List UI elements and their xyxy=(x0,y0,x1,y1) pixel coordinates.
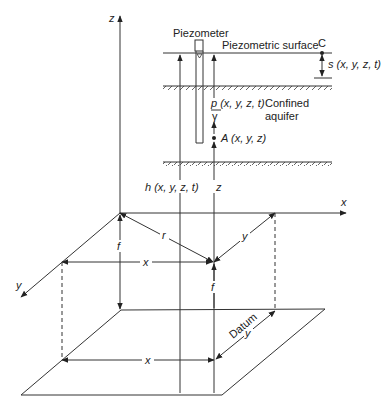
datum-plane-outline xyxy=(21,309,325,395)
aquifer-label-line2: aquifer xyxy=(265,110,299,122)
x-axis-label: x xyxy=(340,196,347,208)
piezometer-cap xyxy=(195,40,203,51)
z-head-label: z xyxy=(215,181,222,193)
piezometer-label: Piezometer xyxy=(173,27,229,39)
pressure-head-denominator: γ xyxy=(212,110,218,122)
piezometric-surface-label: Piezometric surface xyxy=(222,39,319,51)
h-label: h (x, y, z, t) xyxy=(145,181,199,193)
confining-layer-upper xyxy=(163,86,332,90)
point-a-marker xyxy=(212,136,216,140)
datum-label: Datum xyxy=(227,311,260,341)
aquifer-label-line1: Confined xyxy=(265,97,309,109)
x-upper-label: x xyxy=(142,256,149,268)
aquifer-labels: Confined aquifer p (x, y, z, t) γ xyxy=(210,97,309,122)
piezometer: Piezometer xyxy=(173,27,229,143)
datum-plane: x y Datum xyxy=(21,309,325,395)
point-c-label: C xyxy=(318,37,326,49)
groundwater-head-diagram: z x y Piezometric surface C s (x, y, z, … xyxy=(0,0,391,409)
point-a-label: A (x, y, z) xyxy=(220,132,267,144)
y-axis xyxy=(21,213,120,297)
confining-layer-lower xyxy=(163,162,332,166)
x-lower-label: x xyxy=(144,354,151,366)
point-c-marker xyxy=(320,51,324,55)
drawdown-label: s (x, y, z, t) xyxy=(328,58,381,70)
water-level-icon xyxy=(197,54,202,58)
pressure-head-numerator: p (x, y, z, t) xyxy=(210,97,265,109)
y-axis-label: y xyxy=(15,279,23,291)
z-axis-label: z xyxy=(108,12,115,24)
axes: z x y xyxy=(15,12,347,297)
